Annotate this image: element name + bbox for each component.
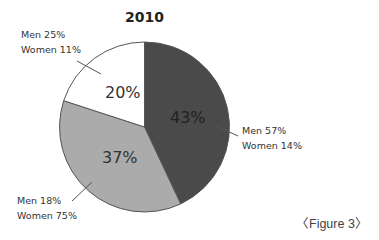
slice-label-43: 43%: [170, 108, 206, 127]
annotation-women-20: Women 11%: [21, 42, 81, 57]
annotation-women-37: Women 75%: [17, 208, 77, 223]
annotation-men-20: Men 25%: [21, 27, 65, 42]
slice-label-20: 20%: [105, 83, 141, 102]
annotation-men-37: Men 18%: [17, 193, 61, 208]
chart-title: 2010: [0, 9, 289, 25]
slice-label-37: 37%: [102, 148, 138, 167]
figure-caption: 〈Figure 3〉: [296, 213, 368, 232]
annotation-women-43: Women 14%: [242, 138, 302, 153]
annotation-men-43: Men 57%: [242, 123, 286, 138]
